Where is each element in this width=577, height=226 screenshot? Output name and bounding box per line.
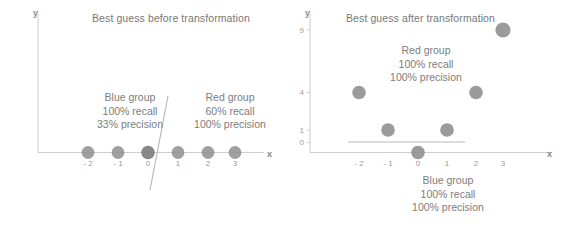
x-tick-label: 1: [168, 159, 188, 168]
annotation-line: 100% precision: [178, 118, 282, 132]
data-point: [352, 86, 366, 100]
y-tick-label: 4: [290, 88, 304, 97]
data-point: [411, 146, 425, 160]
annotation-blue-group-before: Blue group 100% recall 33% precision: [78, 91, 182, 132]
data-point: [495, 22, 510, 37]
panel-title-after: Best guess after transformation: [346, 12, 495, 24]
annotation-line: 100% precision: [390, 201, 506, 215]
panel-before-transformation: y x Best guess before transformation Blu…: [0, 0, 290, 226]
y-tick-label: 9: [290, 26, 304, 35]
x-tick-label: - 1: [108, 159, 128, 168]
x-tick-label: 3: [493, 159, 513, 168]
annotation-line: 100% precision: [368, 71, 484, 85]
annotation-line: Blue group: [390, 174, 506, 188]
annotation-red-group-after: Red group 100% recall 100% precision: [368, 44, 484, 85]
data-point: [381, 123, 395, 137]
data-point: [440, 123, 454, 137]
y-axis-label: y: [33, 8, 38, 18]
x-tick-label: - 1: [378, 159, 398, 168]
x-tick-label: 1: [437, 159, 457, 168]
x-axis-label: x: [267, 149, 272, 159]
x-tick-label: 2: [198, 159, 218, 168]
data-point: [229, 146, 242, 159]
x-tick-label: - 2: [78, 159, 98, 168]
x-tick-label: 3: [225, 159, 245, 168]
x-tick-label: 0: [138, 159, 158, 168]
data-point: [141, 146, 155, 160]
panel-after-transformation: y x Best guess after transformation Red …: [290, 0, 577, 226]
annotation-line: 33% precision: [78, 118, 182, 132]
x-axis-label: x: [547, 149, 552, 159]
annotation-line: Red group: [368, 44, 484, 58]
annotation-line: 100% recall: [78, 105, 182, 119]
annotation-line: Blue group: [78, 91, 182, 105]
annotation-blue-group-after: Blue group 100% recall 100% precision: [390, 174, 506, 215]
y-tick-label: 0: [290, 138, 304, 147]
y-axis-label: y: [305, 8, 310, 18]
panel-title-before: Best guess before transformation: [92, 12, 250, 24]
data-point: [202, 146, 215, 159]
data-point: [469, 86, 483, 100]
annotation-line: 100% recall: [368, 58, 484, 72]
annotation-red-group-before: Red group 60% recall 100% precision: [178, 91, 282, 132]
data-point: [82, 146, 95, 159]
x-tick-label: 2: [466, 159, 486, 168]
figure-root: y x Best guess before transformation Blu…: [0, 0, 577, 226]
data-point: [172, 146, 185, 159]
data-point: [112, 146, 125, 159]
annotation-line: 100% recall: [390, 188, 506, 202]
annotation-line: 60% recall: [178, 105, 282, 119]
annotation-line: Red group: [178, 91, 282, 105]
x-tick-label: 0: [408, 159, 428, 168]
x-tick-label: - 2: [349, 159, 369, 168]
y-tick-label: 1: [290, 126, 304, 135]
